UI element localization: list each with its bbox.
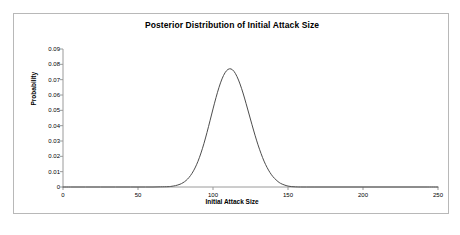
distribution-curve bbox=[63, 69, 438, 187]
axes-group bbox=[60, 49, 438, 190]
chart-frame: Posterior Distribution of Initial Attack… bbox=[13, 13, 449, 214]
chart-plot-svg bbox=[14, 14, 450, 215]
plot-area bbox=[14, 14, 450, 215]
